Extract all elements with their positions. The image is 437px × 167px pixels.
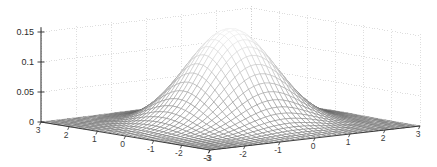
y-tick-label-2: -1 — [274, 145, 282, 155]
z-tick-label-0: 0.15 — [16, 27, 34, 37]
y-tick-label-0: -3 — [204, 153, 212, 163]
z-tick-label-2: 0.05 — [16, 87, 34, 97]
x-tick-label-4: -1 — [147, 144, 155, 154]
x-tick-label-0: 3 — [36, 125, 41, 135]
x-tick-label-1: 2 — [64, 130, 69, 140]
z-tick-label-3: 0 — [29, 117, 34, 127]
x-tick-label-2: 1 — [92, 134, 97, 144]
y-tick-label-5: 2 — [381, 133, 386, 143]
z-tick-label-1: 0.1 — [21, 57, 34, 67]
plot-canvas: 0.150.10.0503210-1-2-3-3-2-10123 — [0, 0, 437, 167]
y-tick-label-3: 0 — [311, 141, 316, 151]
x-tick-label-5: -2 — [175, 148, 183, 158]
y-tick-label-1: -2 — [239, 149, 247, 159]
y-tick-label-6: 3 — [416, 129, 421, 139]
y-tick-label-4: 1 — [346, 137, 351, 147]
gaussian-3d-mesh-plot: 0.150.10.0503210-1-2-3-3-2-10123 — [0, 0, 437, 167]
x-tick-label-3: 0 — [120, 139, 125, 149]
